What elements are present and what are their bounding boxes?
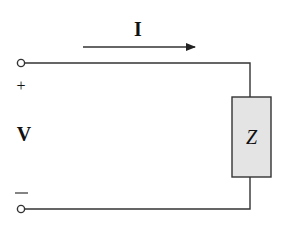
voltage-label: V — [17, 123, 32, 145]
circuit-diagram: I + V Z — [0, 0, 299, 244]
plus-sign: + — [16, 77, 25, 94]
load-label: Z — [246, 126, 258, 148]
negative-terminal — [17, 205, 24, 212]
top-wire — [25, 63, 250, 97]
bottom-wire — [25, 177, 250, 209]
positive-terminal — [17, 59, 24, 66]
current-label: I — [134, 18, 142, 40]
